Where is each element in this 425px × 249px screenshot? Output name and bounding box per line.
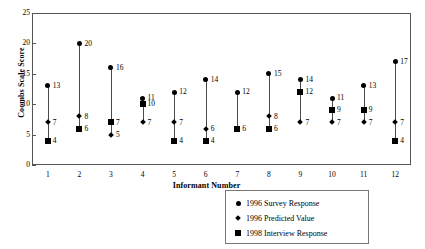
- legend-item: 1998 Interview Response: [233, 226, 327, 240]
- x-tick-label: 9: [290, 170, 310, 179]
- legend-item-label: 1998 Interview Response: [246, 229, 327, 238]
- connector-line: [395, 62, 396, 141]
- data-point-label: 6: [242, 125, 246, 133]
- x-axis-title-text: Informant Number: [173, 181, 241, 190]
- x-tick-label: 12: [385, 170, 405, 179]
- data-point-square: [392, 138, 398, 144]
- data-point-label: 17: [400, 58, 408, 66]
- connector-line: [48, 86, 49, 141]
- y-tick-mark: [32, 165, 36, 166]
- y-tick-mark: [32, 43, 36, 44]
- y-tick-label: 25: [10, 9, 30, 16]
- chart-figure: Coombs Scale Score 0510152025 1347206816…: [0, 0, 425, 249]
- data-point-label: 16: [116, 64, 124, 72]
- data-point-label: 12: [305, 88, 313, 96]
- x-tick-label: 8: [259, 170, 279, 179]
- data-point-square: [76, 126, 82, 132]
- data-point-square: [108, 119, 114, 125]
- chart-legend: 1996 Survey Response1996 Predicted Value…: [225, 190, 369, 244]
- data-point-square: [329, 107, 335, 113]
- y-tick-mark: [32, 104, 36, 105]
- data-point-label: 7: [369, 119, 373, 127]
- data-point-square: [203, 138, 209, 144]
- x-tick-label: 3: [101, 170, 121, 179]
- data-point-label: 14: [211, 76, 219, 84]
- x-tick-label: 1: [38, 170, 58, 179]
- y-tick-mark: [32, 74, 36, 75]
- data-point-label: 15: [274, 70, 282, 78]
- data-point-label: 8: [84, 113, 88, 121]
- data-point-label: 4: [211, 137, 215, 145]
- legend-item-label: 1996 Predicted Value: [246, 214, 314, 223]
- data-point-label: 7: [305, 119, 309, 127]
- data-point-label: 11: [337, 94, 344, 102]
- connector-line: [269, 74, 270, 129]
- data-point-label: 7: [337, 119, 341, 127]
- data-point-square: [266, 126, 272, 132]
- legend-circle-icon: [233, 201, 243, 206]
- legend-item-label: 1996 Survey Response: [246, 199, 319, 208]
- y-tick-mark: [32, 135, 36, 136]
- data-point-label: 12: [179, 88, 187, 96]
- plot-area: [32, 13, 411, 165]
- x-axis-title: Informant Number: [0, 181, 425, 190]
- x-tick-label: 5: [164, 170, 184, 179]
- data-point-circle: [235, 90, 240, 95]
- legend-item: 1996 Survey Response: [233, 196, 319, 210]
- data-point-label: 6: [84, 125, 88, 133]
- y-tick-label: 5: [10, 131, 30, 139]
- legend-item: 1996 Predicted Value: [233, 211, 314, 225]
- data-point-label: 6: [211, 125, 215, 133]
- data-point-label: 13: [369, 82, 377, 90]
- data-point-square: [171, 138, 177, 144]
- y-tick-label: 15: [10, 70, 30, 78]
- data-point-circle: [77, 41, 82, 46]
- data-point-label: 14: [305, 76, 313, 84]
- data-point-label: 9: [369, 106, 373, 114]
- data-point-label: 7: [400, 119, 404, 127]
- data-point-label: 12: [242, 88, 250, 96]
- y-tick-label: 10: [10, 100, 30, 108]
- y-tick-mark: [32, 13, 36, 14]
- x-tick-label: 11: [354, 170, 374, 179]
- y-tick-label: 0: [10, 161, 30, 169]
- x-tick-label: 4: [133, 170, 153, 179]
- data-point-circle: [172, 90, 177, 95]
- data-point-label: 7: [53, 119, 57, 127]
- data-point-circle: [330, 96, 335, 101]
- x-tick-label: 7: [227, 170, 247, 179]
- legend-square-icon: [233, 230, 243, 236]
- data-point-label: 5: [116, 131, 120, 139]
- x-tick-label: 2: [69, 170, 89, 179]
- x-tick-label: 6: [196, 170, 216, 179]
- data-point-circle: [140, 96, 145, 101]
- connector-line: [300, 80, 301, 123]
- data-point-square: [45, 138, 51, 144]
- legend-diamond-icon: [233, 216, 243, 220]
- data-point-label: 4: [53, 137, 57, 145]
- data-point-label: 10: [148, 100, 156, 108]
- data-point-square: [140, 101, 146, 107]
- data-point-circle: [393, 59, 398, 64]
- data-point-square: [361, 107, 367, 113]
- data-point-label: 8: [274, 113, 278, 121]
- data-point-square: [234, 126, 240, 132]
- data-point-label: 7: [179, 119, 183, 127]
- data-point-label: 7: [148, 119, 152, 127]
- connector-line: [174, 92, 175, 141]
- data-point-label: 7: [116, 119, 120, 127]
- data-point-square: [297, 89, 303, 95]
- y-tick-label: 20: [10, 40, 30, 48]
- connector-line: [364, 86, 365, 122]
- data-point-label: 13: [53, 82, 61, 90]
- x-tick-label: 10: [322, 170, 342, 179]
- data-point-label: 6: [274, 125, 278, 133]
- data-point-label: 4: [400, 137, 404, 145]
- data-point-label: 4: [179, 137, 183, 145]
- data-point-label: 9: [337, 106, 341, 114]
- connector-line: [237, 92, 238, 128]
- y-axis: 0510152025: [0, 0, 30, 249]
- data-point-label: 20: [84, 40, 92, 48]
